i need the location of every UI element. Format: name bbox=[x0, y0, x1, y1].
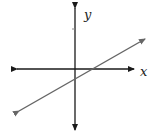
coordinate-plane: y x bbox=[0, 0, 154, 138]
graphed-line bbox=[19, 39, 145, 111]
y-axis-label: y bbox=[83, 7, 92, 22]
x-axis-label: x bbox=[140, 64, 148, 79]
